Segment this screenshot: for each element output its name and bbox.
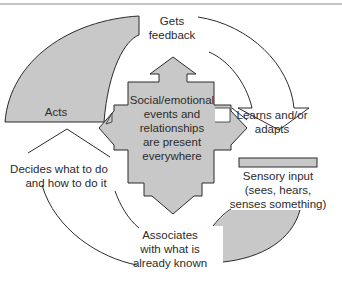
- gets-feedback-line-2: feedback: [149, 29, 196, 41]
- learns-line-2: adapts: [255, 123, 290, 135]
- step-acts: Acts: [45, 106, 68, 118]
- center-line-4: are present: [143, 136, 202, 148]
- step-decides: Decides what to do and how to do it: [10, 163, 108, 189]
- decides-line-1: Decides what to do: [10, 163, 108, 175]
- center-line-5: everywhere: [142, 150, 201, 162]
- step-associates: Associates with what is already known: [133, 229, 207, 269]
- acts-to-decides-line: [28, 129, 67, 153]
- sensory-line-2: (sees, hears,: [245, 184, 311, 196]
- center-line-3: relationships: [140, 122, 205, 134]
- inner-left-arc: [115, 191, 139, 228]
- step-sensory-input: Sensory input (sees, hears, senses somet…: [230, 170, 327, 210]
- acts-label: Acts: [45, 106, 68, 118]
- associates-line-3: already known: [133, 257, 207, 269]
- learns-line-1: Learns and/or: [237, 109, 308, 121]
- sensory-line-3: senses something): [230, 198, 327, 210]
- gets-feedback-line-1: Gets: [160, 15, 185, 27]
- associates-line-1: Associates: [142, 229, 198, 241]
- center-line-2: events and: [144, 108, 200, 120]
- decides-to-associates-arc: [42, 185, 137, 265]
- sensory-line-1: Sensory input: [243, 170, 314, 182]
- right-notch: [215, 108, 230, 122]
- decides-line-2: and how to do it: [25, 177, 107, 189]
- center-line-1: Social/emotional: [130, 94, 214, 106]
- center-text: Social/emotional events and relationship…: [130, 94, 214, 162]
- step-gets-feedback: Gets feedback: [149, 15, 196, 41]
- sensory-bar: [239, 158, 317, 167]
- learning-cycle-diagram: Social/emotional events and relationship…: [0, 0, 342, 283]
- associates-line-2: with what is: [139, 243, 200, 255]
